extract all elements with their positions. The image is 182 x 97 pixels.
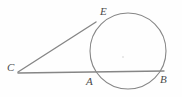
vertex-label-a: A <box>86 76 93 87</box>
vertex-label-e: E <box>100 6 107 17</box>
tangent-line-ce <box>18 22 96 72</box>
circle-shape <box>90 13 166 89</box>
circle-center-dot <box>122 56 124 58</box>
secant-line-cb <box>18 71 164 73</box>
vertex-label-b: B <box>160 74 167 85</box>
vertex-label-c: C <box>7 62 14 73</box>
geometry-figure: E C A B <box>0 0 182 97</box>
